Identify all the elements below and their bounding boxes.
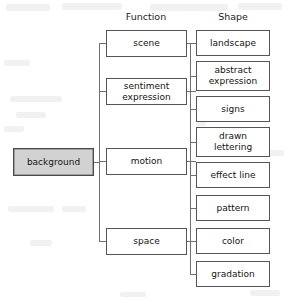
- node-label: motion: [131, 156, 163, 167]
- node-label: abstract expression: [209, 65, 258, 87]
- edge-to-motion: [99, 161, 106, 162]
- edge-to-sentiment-expression: [99, 91, 106, 92]
- node-pattern[interactable]: pattern: [196, 195, 270, 221]
- node-label: drawn lettering: [214, 131, 252, 153]
- node-label: background: [27, 157, 80, 168]
- edge-to-space: [99, 241, 106, 242]
- scan-artifact: [8, 206, 54, 212]
- column-header-function: Function: [105, 11, 187, 23]
- diagram-canvas: Function Shape background scene sentimen…: [0, 0, 288, 301]
- node-label: color: [222, 236, 244, 247]
- node-label: sentiment expression: [122, 81, 171, 103]
- scan-artifact: [4, 60, 30, 66]
- node-motion[interactable]: motion: [106, 148, 187, 175]
- scan-artifact: [150, 4, 228, 11]
- scan-artifact: [10, 96, 62, 102]
- scan-artifact: [250, 290, 280, 296]
- node-scene[interactable]: scene: [106, 30, 187, 57]
- node-sentiment-expression[interactable]: sentiment expression: [106, 78, 187, 105]
- edge-to-scene: [99, 43, 106, 44]
- node-label: effect line: [211, 170, 256, 181]
- scan-artifact: [268, 150, 284, 156]
- node-label: gradation: [211, 269, 254, 280]
- node-space[interactable]: space: [106, 228, 187, 255]
- node-label: scene: [133, 38, 159, 49]
- column-header-shape: Shape: [196, 11, 270, 23]
- scan-artifact: [238, 3, 282, 10]
- node-color[interactable]: color: [196, 228, 270, 254]
- node-label: landscape: [210, 38, 256, 49]
- node-signs[interactable]: signs: [196, 96, 270, 122]
- scan-artifact: [6, 4, 50, 11]
- edge-sentiment-stub: [187, 91, 196, 92]
- scan-artifact: [30, 240, 52, 246]
- node-abstract-expression[interactable]: abstract expression: [196, 61, 270, 91]
- node-effect-line[interactable]: effect line: [196, 162, 270, 188]
- node-drawn-lettering[interactable]: drawn lettering: [196, 127, 270, 157]
- scan-artifact: [62, 3, 122, 10]
- edge-function-trunk: [99, 43, 100, 242]
- scan-artifact: [120, 292, 146, 297]
- scan-artifact: [4, 126, 24, 132]
- node-label: pattern: [216, 203, 249, 214]
- scan-artifact: [62, 206, 86, 212]
- scan-artifact: [16, 112, 46, 118]
- edge-motion-stub: [187, 161, 196, 162]
- node-gradation[interactable]: gradation: [196, 261, 270, 287]
- node-label: space: [133, 236, 159, 247]
- node-label: signs: [221, 104, 244, 115]
- node-background[interactable]: background: [13, 148, 94, 176]
- node-landscape[interactable]: landscape: [196, 30, 270, 56]
